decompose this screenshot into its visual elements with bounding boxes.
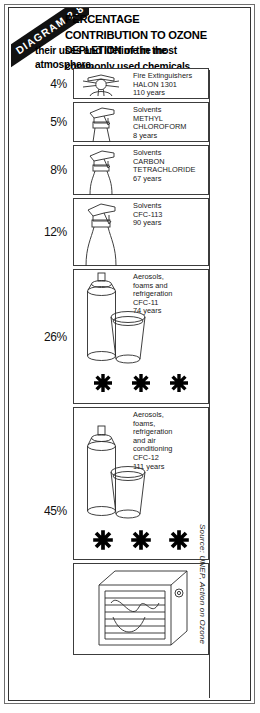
fire-extinguisher-icon [74,69,132,98]
spray-bottle-icon [74,103,132,141]
row-percent: 26% [9,269,73,404]
row-percent: 45% [9,407,73,560]
desc-line: 90 years [133,219,206,228]
aerosol-can-and-foam-cup-icon [74,270,132,370]
row-description: Solvents METHYL CHLOROFORM 8 years [132,103,208,141]
snowflake-icon [130,372,152,394]
row-box: Fire Extinguishers HALON 1301 110 years [73,68,209,99]
title-line-1: PERCENTAGE CONTRIBUTION TO OZONE [65,13,207,41]
row-box: Solvents METHYL CHLOROFORM 8 years [73,102,209,142]
table-row: 8% So [9,145,209,195]
snowflake-icon [129,528,153,552]
row-description: Solvents CARBON TETRACHLORIDE 67 years [132,146,208,194]
column-rule [209,70,210,698]
row-box: Solvents CARBON TETRACHLORIDE 67 years [73,145,209,195]
table-row: 4% [9,68,209,99]
diagram-page: DIAGRAM 2.8 PERCENTAGE CONTRIBUTION TO O… [0,0,260,713]
row-percent: 12% [9,198,73,266]
row-box: Aerosols, foams and refrigeration CFC-11… [73,269,209,404]
contribution-rows: 4% [9,68,209,655]
table-row: 12% S [9,198,209,266]
spray-bottle-icon [74,199,132,265]
desc-line: 110 years [133,89,206,98]
spray-bottle-icon [74,146,132,194]
table-row: 45% [9,407,209,560]
desc-line: 67 years [133,175,206,184]
snowflake-icon [167,528,191,552]
snowflake-row [74,370,208,398]
snowflake-icon [168,372,190,394]
source-credit: Source: UNEP, Action on Ozone [198,524,207,684]
snowflake-row [74,526,208,556]
row-percent: 5% [9,102,73,142]
air-conditioner-box [73,563,209,655]
row-box: Aerosols, foams, refrigeration and air c… [73,407,209,560]
aerosol-can-and-foam-cup-icon [74,408,132,526]
air-conditioner-icon [85,567,197,651]
table-row: 5% So [9,102,209,142]
row-box: Solvents CFC-113 90 years [73,198,209,266]
table-row: 26% [9,269,209,404]
desc-line: 8 years [133,132,206,141]
row-description: Fire Extinguishers HALON 1301 110 years [132,69,208,98]
diagram-content: DIAGRAM 2.8 PERCENTAGE CONTRIBUTION TO O… [9,8,231,698]
row-description: Solvents CFC-113 90 years [132,199,208,265]
snowflake-icon [92,372,114,394]
row-percent: 4% [9,68,73,99]
row-percent: 8% [9,145,73,195]
snowflake-icon [91,528,115,552]
